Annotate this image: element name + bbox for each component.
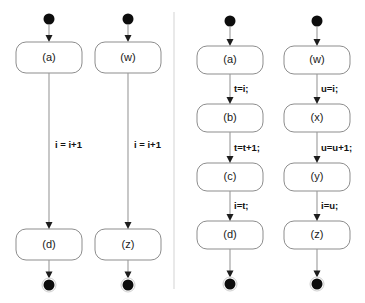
panels-layer: (a)(d)i = i+1(w)(z)i = i+1(a)(b)(c)(d)t=… <box>16 14 352 293</box>
flow-edge-0-arrowhead <box>46 222 53 229</box>
edge-label: i=t; <box>234 200 249 211</box>
final-edge-arrowhead <box>125 272 132 279</box>
activity-node-label: (c) <box>224 170 237 182</box>
initial-edge-arrowhead <box>227 39 234 46</box>
initial-node <box>312 16 323 27</box>
activity-node-label: (b) <box>223 111 236 123</box>
flow-edge-1-arrowhead <box>314 156 321 163</box>
flow-edge-2-arrowhead <box>227 214 234 221</box>
column-w-x-y-z: (w)(x)(y)(z)u=i;u=u+1;i=u; <box>284 16 352 292</box>
edge-label: t=i; <box>234 83 249 94</box>
activity-node-label: (x) <box>311 111 324 123</box>
edge-label: i = i+1 <box>55 139 83 150</box>
column-a-d: (a)(d)i = i+1 <box>16 14 83 293</box>
edge-label: i = i+1 <box>134 139 162 150</box>
activity-node-label: (z) <box>122 238 135 250</box>
final-node <box>123 280 134 291</box>
initial-node <box>123 14 134 25</box>
activity-node-label: (d) <box>223 228 236 240</box>
activity-diagram-canvas: (a)(d)i = i+1(w)(z)i = i+1(a)(b)(c)(d)t=… <box>0 0 365 303</box>
activity-node-label: (a) <box>42 51 55 63</box>
flow-edge-0-arrowhead <box>227 97 234 104</box>
left-panel: (a)(d)i = i+1(w)(z)i = i+1 <box>16 14 162 293</box>
edge-label: u=u+1; <box>321 142 352 153</box>
flow-edge-1-arrowhead <box>227 156 234 163</box>
initial-edge-arrowhead <box>125 35 132 42</box>
activity-node-label: (w) <box>120 51 135 63</box>
initial-edge-arrowhead <box>46 35 53 42</box>
final-node <box>44 280 55 291</box>
column-w-z: (w)(z)i = i+1 <box>95 14 162 293</box>
activity-diagram-svg: (a)(d)i = i+1(w)(z)i = i+1(a)(b)(c)(d)t=… <box>0 0 365 303</box>
activity-node-label: (a) <box>223 53 236 65</box>
flow-edge-0-arrowhead <box>125 222 132 229</box>
final-node <box>225 279 236 290</box>
column-a-b-c-d: (a)(b)(c)(d)t=i;t=t+1;i=t; <box>197 16 263 292</box>
initial-node <box>225 16 236 27</box>
activity-node-label: (y) <box>311 170 324 182</box>
edge-label: i=u; <box>321 200 338 211</box>
activity-node-label: (w) <box>309 53 324 65</box>
activity-node-label: (z) <box>311 228 324 240</box>
initial-edge-arrowhead <box>314 39 321 46</box>
edge-label: t=t+1; <box>234 142 260 153</box>
flow-edge-2-arrowhead <box>314 214 321 221</box>
edge-label: u=i; <box>321 83 338 94</box>
final-node <box>312 279 323 290</box>
flow-edge-0-arrowhead <box>314 97 321 104</box>
final-edge-arrowhead <box>227 271 234 278</box>
initial-node <box>44 14 55 25</box>
final-edge-arrowhead <box>314 271 321 278</box>
activity-node-label: (d) <box>42 238 55 250</box>
right-panel: (a)(b)(c)(d)t=i;t=t+1;i=t;(w)(x)(y)(z)u=… <box>197 16 352 292</box>
final-edge-arrowhead <box>46 272 53 279</box>
